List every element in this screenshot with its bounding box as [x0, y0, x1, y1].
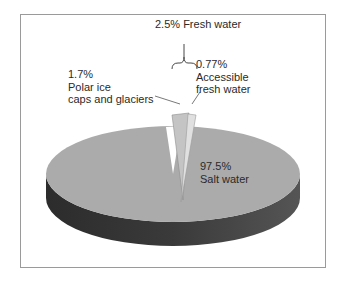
label-fresh-water: 2.5% Fresh water: [155, 18, 241, 31]
salt-pct: 97.5%: [200, 160, 249, 173]
label-polar-ice: 1.7% Polar ice caps and glaciers: [68, 68, 154, 106]
accessible-pct: 0.77%: [196, 58, 250, 71]
fresh-water-text: 2.5% Fresh water: [155, 18, 241, 31]
polar-leader-line: [155, 96, 180, 104]
salt-line1: Salt water: [200, 173, 249, 186]
pie-chart: [0, 0, 346, 281]
polar-line2: caps and glaciers: [68, 93, 154, 106]
fresh-water-brace: [172, 44, 197, 69]
label-salt-water: 97.5% Salt water: [200, 160, 249, 185]
accessible-line1: Accessible: [196, 71, 250, 84]
label-accessible: 0.77% Accessible fresh water: [196, 58, 250, 96]
polar-pct: 1.7%: [68, 68, 154, 81]
polar-line1: Polar ice: [68, 81, 154, 94]
accessible-line2: fresh water: [196, 83, 250, 96]
